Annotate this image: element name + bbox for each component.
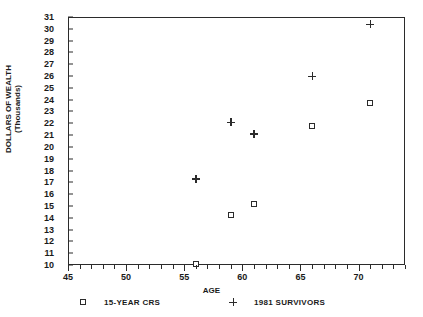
y-tick-mark <box>68 229 73 230</box>
x-tick-label: 65 <box>295 272 305 282</box>
y-tick-mark <box>68 241 73 242</box>
y-tick-mark <box>68 265 73 266</box>
x-tick-mark-minor <box>277 265 278 269</box>
y-tick-label: 29 <box>44 36 54 46</box>
x-tick-mark-minor <box>103 265 104 269</box>
y-tick-label: 15 <box>44 201 54 211</box>
square-marker-icon <box>78 297 92 307</box>
y-tick-label: 22 <box>44 118 54 128</box>
y-tick-label: 14 <box>44 213 54 223</box>
x-tick-mark-minor <box>138 265 139 269</box>
y-tick-mark <box>68 194 73 195</box>
x-tick-mark-minor <box>405 265 406 269</box>
x-tick-mark-minor <box>289 265 290 269</box>
y-tick-mark <box>68 28 73 29</box>
y-tick-label: 16 <box>44 189 54 199</box>
y-tick-label: 18 <box>44 166 54 176</box>
x-tick-mark-minor <box>335 265 336 269</box>
x-tick-mark-minor <box>219 265 220 269</box>
plus-marker-icon <box>253 130 254 138</box>
x-tick-label: 55 <box>179 272 189 282</box>
y-tick-label: 31 <box>44 12 54 22</box>
x-tick-mark-minor <box>382 265 383 269</box>
square-marker-icon <box>228 212 234 218</box>
x-tick-mark-minor <box>231 265 232 269</box>
x-tick-mark-major <box>359 265 360 271</box>
square-marker-icon <box>251 201 257 207</box>
y-tick-mark <box>68 111 73 112</box>
legend-entry: 15-YEAR CRS <box>78 297 160 307</box>
y-tick-label: 12 <box>44 236 54 246</box>
scatter-chart: DOLLARS OF WEALTH (Thousands) 1011121314… <box>0 0 423 317</box>
y-tick-label: 20 <box>44 142 54 152</box>
x-tick-mark-minor <box>266 265 267 269</box>
y-tick-mark <box>68 64 73 65</box>
y-tick-label: 27 <box>44 59 54 69</box>
x-tick-label: 50 <box>121 272 131 282</box>
legend-entry: 1981 SURVIVORS <box>228 297 325 307</box>
x-tick-mark-major <box>68 265 69 271</box>
y-tick-mark <box>68 123 73 124</box>
x-tick-mark-major <box>300 265 301 271</box>
x-tick-label: 70 <box>354 272 364 282</box>
x-tick-mark-minor <box>91 265 92 269</box>
y-axis-tick-labels: 1011121314151617181920212223242526272829… <box>0 17 62 265</box>
y-tick-label: 11 <box>44 248 54 258</box>
x-tick-mark-major <box>184 265 185 271</box>
y-tick-mark <box>68 205 73 206</box>
x-tick-mark-minor <box>114 265 115 269</box>
x-tick-mark-minor <box>149 265 150 269</box>
x-tick-mark-minor <box>161 265 162 269</box>
y-tick-mark <box>68 158 73 159</box>
y-tick-label: 17 <box>44 177 54 187</box>
x-axis-title: AGE <box>0 286 423 295</box>
y-tick-label: 28 <box>44 47 54 57</box>
y-tick-label: 21 <box>44 130 54 140</box>
plus-marker-icon <box>312 72 313 80</box>
x-tick-mark-minor <box>347 265 348 269</box>
square-marker-icon <box>309 123 315 129</box>
y-tick-label: 26 <box>44 71 54 81</box>
y-tick-label: 10 <box>44 260 54 270</box>
legend-label: 1981 SURVIVORS <box>254 298 325 307</box>
y-tick-mark <box>68 76 73 77</box>
x-tick-mark-major <box>242 265 243 271</box>
y-tick-mark <box>68 217 73 218</box>
plus-marker-icon <box>230 118 231 126</box>
x-tick-mark-minor <box>173 265 174 269</box>
legend-label: 15-YEAR CRS <box>104 298 160 307</box>
x-tick-mark-minor <box>312 265 313 269</box>
square-marker-icon <box>367 100 373 106</box>
x-tick-mark-minor <box>80 265 81 269</box>
y-tick-mark <box>68 87 73 88</box>
plot-area <box>68 17 405 265</box>
y-tick-label: 19 <box>44 154 54 164</box>
x-tick-mark-minor <box>254 265 255 269</box>
y-tick-label: 23 <box>44 106 54 116</box>
x-tick-label: 45 <box>63 272 73 282</box>
y-tick-label: 25 <box>44 83 54 93</box>
x-tick-mark-minor <box>324 265 325 269</box>
chart-legend: 15-YEAR CRS1981 SURVIVORS <box>0 297 423 313</box>
x-tick-mark-minor <box>370 265 371 269</box>
y-tick-mark <box>68 99 73 100</box>
y-tick-mark <box>68 40 73 41</box>
x-tick-label: 60 <box>237 272 247 282</box>
plus-marker-icon <box>195 175 196 183</box>
x-tick-mark-minor <box>393 265 394 269</box>
y-tick-label: 24 <box>44 95 54 105</box>
y-tick-label: 30 <box>44 24 54 34</box>
x-tick-mark-minor <box>207 265 208 269</box>
y-tick-mark <box>68 135 73 136</box>
x-tick-mark-major <box>126 265 127 271</box>
y-tick-mark <box>68 182 73 183</box>
plus-marker-icon <box>228 297 242 307</box>
x-tick-mark-minor <box>196 265 197 269</box>
plus-marker-icon <box>370 20 371 28</box>
y-tick-mark <box>68 253 73 254</box>
y-tick-mark <box>68 170 73 171</box>
y-tick-mark <box>68 17 73 18</box>
y-tick-mark <box>68 146 73 147</box>
y-tick-mark <box>68 52 73 53</box>
y-tick-label: 13 <box>44 225 54 235</box>
